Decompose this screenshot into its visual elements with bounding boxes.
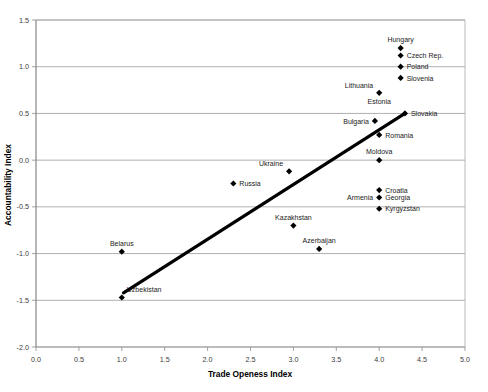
point-label-bulgaria: Bulgaria — [343, 118, 369, 126]
point-label-estonia: Estonia — [368, 98, 391, 105]
y-tick-label--0.5: -0.5 — [17, 202, 29, 211]
point-label-armenia: Armenia — [347, 194, 373, 201]
y-tick-label--1.0: -1.0 — [17, 249, 29, 258]
x-axis-title: Trade Openess Index — [208, 369, 293, 379]
y-tick-label--2.0: -2.0 — [17, 343, 29, 352]
x-tick-label-2.5: 2.5 — [246, 355, 256, 364]
x-tick-label-0.0: 0.0 — [31, 355, 41, 364]
chart-canvas: HungaryCzech Rep.PolandSloveniaLithuania… — [0, 0, 488, 392]
point-label-hungary: Hungary — [387, 36, 414, 44]
x-tick-label-1.5: 1.5 — [160, 355, 170, 364]
point-label-lithuania: Lithuania — [345, 82, 374, 89]
point-label-moldova: Moldova — [366, 148, 393, 155]
y-tick-label-1.5: 1.5 — [19, 16, 29, 25]
scatter-chart-figure: HungaryCzech Rep.PolandSloveniaLithuania… — [0, 0, 488, 392]
point-label-croatia: Croatia — [385, 187, 408, 194]
x-tick-label-0.5: 0.5 — [74, 355, 84, 364]
point-label-kyrgyzstan: Kyrgyzstan — [385, 205, 420, 213]
x-tick-label-4.5: 4.5 — [417, 355, 427, 364]
x-tick-label-5.0: 5.0 — [460, 355, 470, 364]
point-label-czech-rep: Czech Rep. — [407, 52, 444, 60]
x-tick-label-4.0: 4.0 — [374, 355, 384, 364]
y-axis-title: Accountability Index — [3, 144, 13, 226]
point-label-georgia: Georgia — [385, 194, 410, 202]
x-tick-label-3.0: 3.0 — [288, 355, 298, 364]
point-label-poland: Poland — [407, 63, 429, 70]
x-tick-label-3.5: 3.5 — [331, 355, 341, 364]
point-label-azerbaijan: Azerbaijan — [303, 237, 336, 245]
point-label-russia: Russia — [239, 180, 261, 187]
y-tick-label-1.0: 1.0 — [19, 62, 29, 71]
x-tick-label-2.0: 2.0 — [203, 355, 213, 364]
y-tick-label-0.0: 0.0 — [19, 156, 29, 165]
point-label-belarus: Belarus — [110, 240, 134, 247]
y-tick-label-0.5: 0.5 — [19, 109, 29, 118]
point-label-kazakhstan: Kazakhstan — [275, 214, 312, 221]
x-tick-label-1.0: 1.0 — [117, 355, 127, 364]
point-label-slovenia: Slovenia — [407, 75, 434, 82]
point-label-ukraine: Ukraine — [259, 160, 283, 167]
point-label-romania: Romania — [385, 132, 413, 139]
point-label-uzbekistan: Uzbekistan — [127, 286, 162, 293]
y-tick-label--1.5: -1.5 — [17, 296, 29, 305]
point-label-slovakia: Slovakia — [411, 110, 438, 117]
